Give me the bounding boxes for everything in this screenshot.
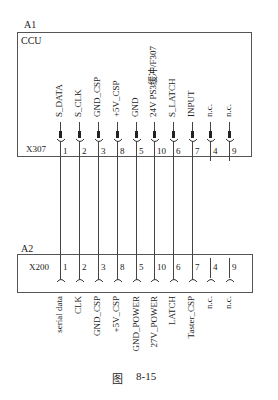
a1-signal-label: GND_CSP	[93, 77, 102, 117]
a2-pin-line	[210, 258, 211, 278]
a2-signal-label: CLK	[74, 296, 83, 314]
unit-a1-id: A1	[24, 20, 36, 30]
a2-pin-line	[79, 258, 80, 278]
a2-pin-line	[173, 258, 174, 278]
connector-x307-label: X307	[26, 144, 46, 154]
a2-pin-line	[136, 258, 137, 278]
a2-pin-line	[60, 258, 61, 278]
a2-pin-number: 3	[101, 262, 106, 272]
a2-pin-number: 2	[82, 262, 87, 272]
a2-pin-line	[192, 258, 193, 278]
a2-signal-label: n.c.	[224, 296, 233, 309]
a2-pin-number: 4	[213, 262, 218, 272]
a2-pin-line	[98, 258, 99, 278]
a1-signal-label: S_CLK	[74, 89, 83, 117]
a1-pin-number: 8	[120, 146, 125, 156]
a1-pin-number: 1	[63, 146, 68, 156]
a1-pin-number: 9	[232, 146, 237, 156]
a2-signal-label: Taster_CSP	[187, 296, 196, 338]
a2-signal-label: +5V_CSP	[112, 296, 121, 333]
connector-plug	[116, 131, 119, 138]
a2-pin-line	[154, 258, 155, 278]
a1-signal-label: INPUT	[187, 91, 196, 118]
a1-signal-label: S_LATCH	[168, 78, 177, 117]
nc-stub-a1	[229, 141, 230, 161]
a2-pin-line	[117, 258, 118, 278]
a2-pin-number: 9	[232, 262, 237, 272]
a1-signal-label: S_DATA	[55, 84, 64, 117]
a2-pin-line	[229, 258, 230, 278]
unit-a2-box	[17, 254, 253, 293]
a1-pin-number: 10	[157, 146, 166, 156]
a2-signal-label: GND_CSP	[93, 296, 102, 336]
a2-pin-number: 6	[176, 262, 181, 272]
a1-signal-label: +5V_CSP	[112, 80, 121, 117]
connector-plug	[153, 131, 156, 138]
a2-signal-label: GND_POWER	[131, 296, 140, 352]
connector-plug	[228, 131, 231, 138]
connector-plug	[191, 131, 194, 138]
a2-pin-number: 7	[195, 262, 200, 272]
figure-caption-number: 8-15	[136, 370, 156, 382]
a1-pin-number: 7	[195, 146, 200, 156]
a2-pin-number: 5	[139, 262, 144, 272]
a2-pin-number: 1	[63, 262, 68, 272]
a2-pin-number: 10	[157, 262, 166, 272]
connector-plug	[97, 131, 100, 138]
a1-pin-number: 5	[139, 146, 144, 156]
a1-signal-label: n.c.	[205, 104, 214, 117]
a1-pin-number: 6	[176, 146, 181, 156]
unit-a1-name: CCU	[21, 36, 42, 46]
unit-a2-id: A2	[21, 244, 33, 254]
a1-pin-number: 4	[213, 146, 218, 156]
connector-plug	[78, 131, 81, 138]
nc-stub-a1	[210, 141, 211, 161]
connector-x200-label: X200	[29, 262, 49, 272]
connector-plug	[209, 131, 212, 138]
a2-signal-label: LATCH	[168, 296, 177, 325]
connector-plug	[135, 131, 138, 138]
a2-signal-label: serial data	[55, 296, 64, 333]
a1-pin-number: 3	[101, 146, 106, 156]
a2-signal-label: 27V_POWER	[149, 296, 158, 348]
connector-plug	[172, 131, 175, 138]
connector-plug	[59, 131, 62, 138]
a1-signal-label: 24V PS3缓冲/F307	[149, 46, 158, 117]
a2-signal-label: n.c.	[205, 296, 214, 309]
a1-signal-label: GND	[131, 98, 140, 118]
a2-pin-number: 8	[120, 262, 125, 272]
a1-signal-label: n.c.	[224, 104, 233, 117]
figure-caption-prefix: 图	[112, 370, 123, 386]
a1-pin-number: 2	[82, 146, 87, 156]
